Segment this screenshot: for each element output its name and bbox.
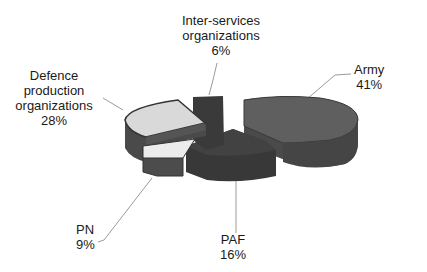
label-dpo-line1: Defence: [14, 68, 94, 83]
label-paf-name: PAF: [220, 232, 246, 247]
label-defence-production: Defence production organizations 28%: [14, 68, 94, 128]
label-army-name: Army: [354, 62, 384, 77]
label-pn-pct: 9%: [76, 237, 95, 252]
label-dpo-pct: 28%: [14, 113, 94, 128]
label-iso-line1: Inter-services: [176, 13, 266, 28]
label-army: Army 41%: [354, 62, 384, 92]
label-pn: PN 9%: [76, 222, 95, 252]
label-paf-pct: 16%: [220, 247, 246, 262]
leader-dpo: [103, 98, 123, 110]
label-dpo-line3: organizations: [14, 98, 94, 113]
label-pn-name: PN: [76, 222, 95, 237]
label-iso-line2: organizations: [176, 28, 266, 43]
label-dpo-line2: production: [14, 83, 94, 98]
leader-pn: [98, 178, 152, 242]
label-paf: PAF 16%: [220, 232, 246, 262]
label-inter-services: Inter-services organizations 6%: [176, 13, 266, 58]
label-iso-pct: 6%: [176, 43, 266, 58]
label-army-pct: 41%: [354, 77, 384, 92]
leader-iso: [209, 63, 217, 95]
